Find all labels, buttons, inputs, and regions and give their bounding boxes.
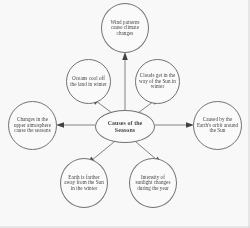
- concept-map-canvas: Wind patterns cause climate changes Ocea…: [0, 0, 250, 228]
- node-oceans-cool-land[interactable]: Oceans cool off the land in winter: [66, 59, 111, 104]
- node-label: Intensity of sunlight changes during the…: [132, 175, 174, 192]
- edge-center-to-top: [122, 52, 128, 110]
- node-sunlight-intensity[interactable]: Intensity of sunlight changes during the…: [129, 158, 177, 208]
- node-earths-orbit[interactable]: Caused by the Earth's orbit around the S…: [193, 101, 242, 150]
- node-clouds-block-sun[interactable]: Clouds get in the way of the Sun in wint…: [135, 59, 180, 104]
- edge-center-to-left: [56, 122, 95, 127]
- node-label: Earth is farther away from the Sun in th…: [63, 175, 105, 192]
- node-label: Changes in the upper atmosphere cause th…: [11, 117, 54, 134]
- node-wind-patterns[interactable]: Wind patterns cause climate changes: [101, 3, 149, 53]
- edge-center-to-right: [155, 122, 194, 127]
- node-upper-atmosphere[interactable]: Changes in the upper atmosphere cause th…: [8, 101, 57, 150]
- node-label: Clouds get in the way of the Sun in wint…: [138, 73, 177, 90]
- node-label: Wind patterns cause climate changes: [104, 20, 146, 37]
- node-label: Oceans cool off the land in winter: [69, 76, 108, 87]
- node-earth-farther-winter[interactable]: Earth is farther away from the Sun in th…: [60, 158, 108, 208]
- node-label: Caused by the Earth's orbit around the S…: [196, 117, 239, 134]
- center-node-label: Causes of the Seasons: [98, 120, 152, 133]
- node-center-causes-of-seasons[interactable]: Causes of the Seasons: [95, 110, 155, 143]
